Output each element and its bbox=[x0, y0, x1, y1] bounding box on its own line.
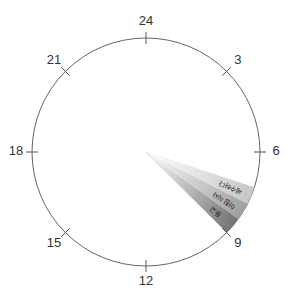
clock-diagram: 세수하다아침식사등교 2436912151821 bbox=[0, 0, 289, 304]
hour-labels: 2436912151821 bbox=[9, 13, 280, 288]
hour-label: 6 bbox=[272, 143, 279, 158]
hour-label: 3 bbox=[234, 52, 241, 67]
activity-wedges: 세수하다아침식사등교 bbox=[146, 152, 254, 233]
hour-label: 15 bbox=[47, 235, 61, 250]
hour-label: 18 bbox=[9, 143, 23, 158]
hour-label: 24 bbox=[139, 13, 153, 28]
hour-label: 21 bbox=[47, 52, 61, 67]
hour-label: 9 bbox=[234, 235, 241, 250]
hour-label: 12 bbox=[139, 273, 153, 288]
